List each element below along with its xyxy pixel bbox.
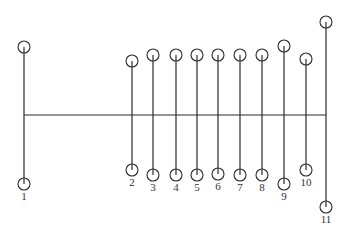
post-8: 8 bbox=[256, 49, 268, 193]
post-10: 10 bbox=[300, 53, 312, 188]
post-label: 7 bbox=[237, 181, 243, 193]
posts-group: 1234567891011 bbox=[18, 16, 332, 225]
post-label: 4 bbox=[173, 181, 179, 193]
post-5: 5 bbox=[191, 49, 203, 193]
post-label: 10 bbox=[301, 176, 313, 188]
post-label: 3 bbox=[150, 181, 156, 193]
post-9: 9 bbox=[278, 40, 290, 202]
stick-diagram: 1234567891011 bbox=[0, 0, 348, 237]
post-label: 6 bbox=[215, 180, 221, 192]
post-label: 8 bbox=[259, 181, 265, 193]
post-6: 6 bbox=[212, 49, 224, 192]
post-label: 5 bbox=[194, 181, 200, 193]
post-label: 1 bbox=[21, 190, 27, 202]
post-label: 11 bbox=[321, 213, 332, 225]
post-11: 11 bbox=[320, 16, 332, 225]
post-3: 3 bbox=[147, 49, 159, 193]
post-4: 4 bbox=[170, 49, 182, 193]
post-label: 2 bbox=[129, 176, 135, 188]
post-label: 9 bbox=[281, 190, 287, 202]
post-2: 2 bbox=[126, 55, 138, 188]
post-7: 7 bbox=[234, 49, 246, 193]
post-1: 1 bbox=[18, 41, 30, 202]
